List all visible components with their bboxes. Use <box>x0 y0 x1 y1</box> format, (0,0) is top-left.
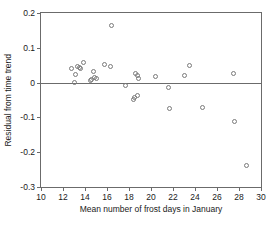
x-axis-tick-label: 16 <box>102 193 111 202</box>
data-point <box>244 163 249 168</box>
x-axis-tick <box>41 187 42 191</box>
y-axis-tick-label: 0 <box>30 78 35 87</box>
data-point <box>135 93 140 98</box>
x-axis-tick-label: 18 <box>124 193 133 202</box>
x-axis-tick-label: 12 <box>58 193 67 202</box>
data-point <box>123 83 128 88</box>
y-axis-tick <box>37 13 41 14</box>
x-axis-tick <box>63 187 64 191</box>
data-point <box>78 66 83 71</box>
data-point <box>69 66 74 71</box>
y-axis-tick <box>37 117 41 118</box>
data-point <box>187 63 192 68</box>
x-axis-tick <box>261 187 262 191</box>
x-axis-tick-label: 28 <box>234 193 243 202</box>
data-point <box>108 64 113 69</box>
x-axis-tick-label: 24 <box>190 193 199 202</box>
y-axis-label: Residual from time trend <box>2 12 14 188</box>
data-point <box>182 73 187 78</box>
data-point <box>91 69 96 74</box>
y-axis-tick-label: -0.1 <box>20 113 35 122</box>
x-axis-tick-label: 14 <box>80 193 89 202</box>
y-axis-tick-label: -0.3 <box>20 183 35 192</box>
data-point <box>136 76 141 81</box>
x-axis-tick <box>173 187 174 191</box>
data-point <box>166 85 171 90</box>
x-axis-tick <box>85 187 86 191</box>
data-point <box>200 105 205 110</box>
data-point <box>153 74 158 79</box>
data-point <box>109 23 114 28</box>
x-axis-tick <box>129 187 130 191</box>
y-axis-tick <box>37 48 41 49</box>
data-point <box>232 119 237 124</box>
y-axis-tick-label: 0.1 <box>23 44 35 53</box>
x-axis-tick-label: 30 <box>256 193 265 202</box>
x-axis-tick <box>151 187 152 191</box>
x-axis-tick-label: 26 <box>212 193 221 202</box>
y-axis-tick-label: 0.2 <box>23 9 35 18</box>
y-axis-tick <box>37 83 41 84</box>
x-axis-tick <box>217 187 218 191</box>
x-axis-tick-label: 22 <box>168 193 177 202</box>
data-point <box>81 60 86 65</box>
data-point <box>94 76 99 81</box>
scatter-plot-figure: 0.20.10-0.1-0.2-0.3101214161820222426283… <box>0 0 274 226</box>
data-point <box>167 106 172 111</box>
x-axis-tick-label: 20 <box>146 193 155 202</box>
x-axis-tick-label: 10 <box>36 193 45 202</box>
data-point <box>102 62 107 67</box>
data-point <box>73 72 78 77</box>
x-axis-tick <box>195 187 196 191</box>
data-point <box>231 71 236 76</box>
y-axis-label-text: Residual from time trend <box>4 54 13 147</box>
y-axis-tick-label: -0.2 <box>20 148 35 157</box>
x-axis-tick <box>107 187 108 191</box>
data-point <box>72 80 77 85</box>
plot-area: 0.20.10-0.1-0.2-0.3101214161820222426283… <box>40 12 262 188</box>
x-axis-tick <box>239 187 240 191</box>
y-axis-tick <box>37 152 41 153</box>
x-axis-label: Mean number of frost days in January <box>40 205 262 214</box>
